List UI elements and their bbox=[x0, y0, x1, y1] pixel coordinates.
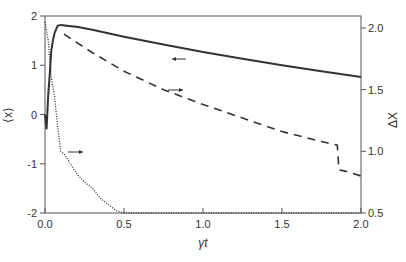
axis-ticks: 0.00.51.01.52.0-2-10120.51.01.52.0 bbox=[27, 10, 383, 230]
y-right-tick-label: 2.0 bbox=[368, 22, 383, 34]
chart: 0.00.51.01.52.0-2-10120.51.01.52.0 γt ⟨x… bbox=[0, 0, 406, 262]
y-left-tick-label: 2 bbox=[31, 10, 37, 22]
x-tick-label: 1.5 bbox=[274, 218, 289, 230]
series-dashed bbox=[64, 34, 361, 176]
series-dotted bbox=[45, 22, 361, 213]
x-tick-label: 0.0 bbox=[37, 218, 52, 230]
arrow-right-dotted-head bbox=[79, 150, 83, 154]
y-left-tick-label: -1 bbox=[27, 158, 37, 170]
x-axis-label: γt bbox=[198, 236, 208, 250]
arrow-left-solid-head bbox=[172, 57, 176, 61]
y-right-tick-label: 0.5 bbox=[368, 207, 383, 219]
axis-arrows bbox=[68, 57, 186, 154]
x-tick-label: 1.0 bbox=[195, 218, 210, 230]
x-tick-label: 0.5 bbox=[116, 218, 131, 230]
y-left-tick-label: 0 bbox=[31, 109, 37, 121]
plot-border bbox=[45, 16, 361, 213]
y-axis-left-label: ⟨x⟩ bbox=[1, 107, 15, 123]
y-right-tick-label: 1.5 bbox=[368, 84, 383, 96]
y-right-tick-label: 1.0 bbox=[368, 145, 383, 157]
series-solid bbox=[45, 25, 361, 129]
x-tick-label: 2.0 bbox=[353, 218, 368, 230]
y-left-tick-label: 1 bbox=[31, 59, 37, 71]
plot-frame bbox=[45, 16, 361, 213]
arrow-right-dashed-head bbox=[179, 88, 183, 92]
y-left-tick-label: -2 bbox=[27, 207, 37, 219]
y-axis-right-label: ΔX bbox=[386, 112, 400, 128]
series-layer bbox=[45, 22, 361, 213]
